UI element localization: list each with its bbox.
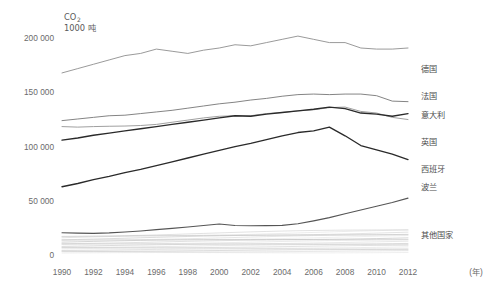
y-axis-ticks: 050 000100 000150 000200 000 (24, 33, 54, 260)
x-tick-label: 1992 (84, 267, 103, 277)
x-tick-label: 2006 (304, 267, 323, 277)
x-tick-label: 2012 (399, 267, 418, 277)
legend-label: 意大利 (421, 110, 445, 120)
y-tick-label: 200 000 (24, 33, 54, 43)
country-series-lines (62, 36, 408, 233)
x-tick-label: 2008 (336, 267, 355, 277)
legend-label: 其他国家 (421, 230, 453, 240)
series-line (62, 94, 408, 121)
chart-canvas: CO 2 1000 吨 050 000100 000150 000200 000… (0, 0, 497, 286)
y-tick-label: 0 (49, 250, 54, 260)
x-tick-label: 1996 (147, 267, 166, 277)
other-country-line (62, 252, 408, 253)
unit-co2-subscript: 2 (77, 16, 81, 23)
chart-legend: 德国法国意大利英国西班牙波兰其他国家 (421, 64, 453, 240)
x-tick-label: 2002 (241, 267, 260, 277)
legend-label: 法国 (421, 91, 437, 101)
x-axis-unit-label: (年) (469, 267, 483, 277)
x-axis-ticks: 1990199219941996199820002002200420062008… (53, 267, 418, 277)
y-tick-label: 50 000 (29, 196, 55, 206)
x-tick-label: 2010 (367, 267, 386, 277)
x-tick-label: 1994 (116, 267, 135, 277)
legend-label: 德国 (421, 64, 437, 74)
legend-label: 西班牙 (421, 164, 445, 174)
unit-co2-label: CO (64, 12, 77, 22)
x-tick-label: 1990 (53, 267, 72, 277)
other-countries-lines (62, 230, 408, 253)
legend-label: 波兰 (421, 182, 437, 192)
x-tick-label: 1998 (179, 267, 198, 277)
series-line (62, 107, 408, 140)
unit-thousand-tons-label: 1000 吨 (64, 23, 96, 33)
co2-emissions-line-chart: CO 2 1000 吨 050 000100 000150 000200 000… (0, 0, 497, 286)
series-line (62, 198, 408, 233)
series-line (62, 127, 408, 187)
x-tick-label: 2000 (210, 267, 229, 277)
x-tick-label: 2004 (273, 267, 292, 277)
series-line (62, 36, 408, 73)
y-tick-label: 100 000 (24, 142, 54, 152)
series-line (62, 107, 408, 127)
legend-label: 英国 (421, 137, 437, 147)
y-axis-unit-label: CO 2 1000 吨 (64, 12, 96, 33)
y-tick-label: 150 000 (24, 87, 54, 97)
